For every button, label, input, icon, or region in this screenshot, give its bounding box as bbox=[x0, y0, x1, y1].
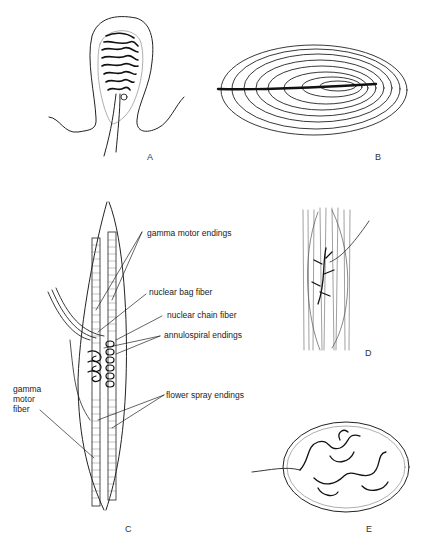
panel-label-c: C bbox=[125, 524, 132, 534]
panel-label-e: E bbox=[366, 524, 372, 534]
panel-label-b: B bbox=[375, 152, 381, 162]
panel-label-a: A bbox=[147, 152, 153, 162]
panel-c-drawing bbox=[40, 202, 164, 510]
panel-label-d: D bbox=[365, 348, 372, 358]
label-nuclear-chain-fiber: nuclear chain fiber bbox=[167, 310, 236, 320]
panel-a-drawing bbox=[49, 17, 184, 156]
label-gamma-motor-endings: gamma motor endings bbox=[147, 228, 232, 238]
panel-e-drawing bbox=[252, 422, 409, 512]
label-flower-spray-endings: flower spray endings bbox=[166, 390, 244, 400]
figure-drawing bbox=[0, 0, 439, 546]
label-gamma-motor-fiber: gamma motor fiber bbox=[13, 384, 41, 414]
panel-b-drawing bbox=[218, 45, 407, 135]
label-annulospiral-endings: annulospiral endings bbox=[164, 330, 242, 340]
label-nuclear-bag-fiber: nuclear bag fiber bbox=[149, 287, 212, 297]
panel-d-drawing bbox=[303, 208, 369, 350]
